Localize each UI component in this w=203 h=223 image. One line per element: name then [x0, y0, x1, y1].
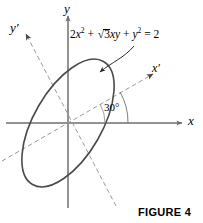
equation-radicand: 3	[104, 28, 110, 40]
radical-vinculum	[103, 29, 110, 30]
equation-exponent-2: 2	[138, 26, 142, 35]
equation-plus-1: +	[87, 28, 94, 40]
equation-equals-sign: =	[144, 28, 151, 40]
angle-label: 30°	[104, 102, 119, 113]
y-prime-axis	[26, 34, 116, 206]
x-axis-label: x	[188, 114, 194, 127]
equation-annotation: 2x2 + √3xy + y2 = 2	[70, 28, 159, 41]
y-axis-label: y	[64, 2, 70, 15]
equation-plus-2: +	[123, 28, 130, 40]
y-prime-axis-label: y′	[10, 21, 19, 34]
x-prime-axis-label: x′	[152, 62, 160, 74]
equation-leader-arrow	[100, 46, 134, 72]
equation-radical-group: √3	[97, 28, 110, 41]
x-prime-axis	[2, 74, 153, 161]
equation-right-hand-side: 2	[154, 28, 160, 40]
angle-arc	[120, 92, 128, 123]
figure-caption: FIGURE 4	[138, 206, 191, 218]
equation-xy-term: xy	[110, 28, 120, 40]
equation-exponent-1: 2	[81, 26, 85, 35]
figure-container: y x y′ x′ 30° 2x2 + √3xy + y2 = 2 FIGURE…	[0, 0, 203, 223]
